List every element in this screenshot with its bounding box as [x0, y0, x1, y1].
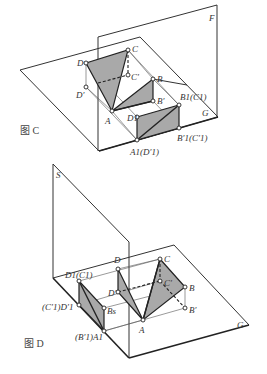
- point-c-prime: [158, 279, 162, 283]
- label-plane-s: S: [56, 170, 61, 180]
- triangle-cba: [143, 259, 185, 320]
- point-c: [126, 48, 130, 52]
- label-d1-c1: D1(C1): [64, 270, 93, 280]
- point-b: [151, 77, 155, 81]
- figure-d-caption: 图 D: [24, 338, 44, 349]
- label-b1p-c1p: B′1(C′1): [177, 133, 207, 143]
- point-b-prime: [183, 306, 187, 310]
- point-a: [110, 109, 114, 113]
- label-d1: D1: [126, 113, 138, 123]
- horizontal-plane-front-edge: [129, 325, 249, 358]
- label-b1p-a1: (B′1)A1: [75, 332, 103, 342]
- label-a: A: [138, 325, 145, 335]
- label-b-prime: B′: [189, 305, 197, 315]
- label-d: D: [76, 58, 84, 68]
- point-d1-prime: [77, 303, 81, 307]
- point-d: [116, 267, 120, 271]
- label-d: D: [113, 255, 121, 265]
- point-b1: [177, 103, 181, 107]
- point-b: [183, 285, 187, 289]
- projector-a: [104, 320, 143, 331]
- label-c-prime: C′: [131, 72, 140, 82]
- point-d-prime: [84, 85, 88, 89]
- label-c: C: [164, 254, 171, 264]
- projection-diagram: F G D C C′ B D′ A B′ D1 B1(C1) B′1(C′1) …: [0, 0, 267, 374]
- label-b: B: [157, 74, 163, 84]
- label-d-prime: D′: [75, 90, 85, 100]
- figure-c: F G D C C′ B D′ A B′ D1 B1(C1) B′1(C′1) …: [20, 5, 218, 157]
- point-c-prime: [126, 73, 130, 77]
- label-plane-f: F: [208, 13, 215, 23]
- point-d: [84, 61, 88, 65]
- label-bs: Bs: [107, 306, 116, 316]
- figure-d: S G D1(C1) (C′1)D′1 Bs (B′1)A1 D D′ C C′…: [24, 164, 249, 358]
- label-c1p-d1p: (C′1)D′1: [42, 302, 73, 312]
- label-c: C: [132, 44, 139, 54]
- point-a1: [135, 138, 139, 142]
- point-b-prime: [151, 99, 155, 103]
- figure-c-caption: 图 C: [20, 125, 40, 136]
- label-b: B: [189, 283, 195, 293]
- label-b-prime: B′: [157, 96, 165, 106]
- label-c-prime: C′: [164, 278, 173, 288]
- point-bs: [102, 306, 106, 310]
- point-a: [141, 318, 145, 322]
- edge-dc: [118, 259, 160, 269]
- label-plane-g: G: [202, 108, 209, 118]
- label-plane-g: G: [237, 320, 244, 330]
- label-d-prime: D′: [107, 288, 117, 298]
- label-a1-d1p: A1(D′1): [129, 147, 159, 157]
- point-d-prime: [116, 290, 120, 294]
- triangle-dd-prime-a: [118, 269, 143, 320]
- label-a: A: [104, 116, 111, 126]
- label-b1-c1: B1(C1): [180, 92, 207, 102]
- point-b1-prime: [177, 126, 181, 130]
- triangle-dca: [86, 50, 128, 111]
- point-c: [158, 257, 162, 261]
